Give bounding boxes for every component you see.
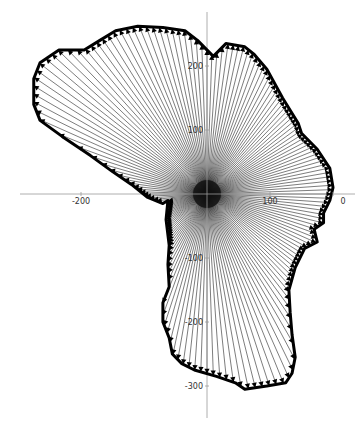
arrowhead — [114, 32, 119, 38]
field-ray — [201, 194, 207, 372]
y-tick-label: 200 — [188, 62, 203, 71]
field-ray — [184, 31, 207, 194]
field-ray — [207, 157, 322, 194]
arrowhead — [102, 39, 107, 45]
arrowhead — [169, 250, 174, 256]
y-tick-label: -100 — [185, 254, 203, 263]
arrowhead — [97, 42, 102, 48]
x-tick-label: -200 — [72, 197, 90, 206]
arrowhead — [270, 85, 275, 91]
field-ray — [207, 194, 213, 375]
ticks-group: -2001000200100-100-200-300 — [72, 62, 346, 391]
field-ray — [207, 53, 253, 194]
arrowhead — [168, 256, 173, 262]
arrowhead — [46, 59, 52, 64]
arrowhead — [40, 63, 46, 68]
arrowhead — [85, 49, 90, 55]
field-ray — [207, 194, 233, 382]
field-ray — [153, 27, 207, 194]
y-tick-label: -200 — [185, 318, 203, 327]
field-ray — [183, 194, 207, 364]
arrowhead — [287, 324, 292, 330]
y-tick-label: -300 — [185, 382, 203, 391]
arrowhead — [286, 312, 291, 318]
x-tick-label: 0 — [340, 197, 345, 206]
arrowhead — [285, 303, 290, 309]
rays-group — [34, 26, 333, 388]
x-tick-label: 100 — [262, 197, 277, 206]
field-ray — [108, 35, 207, 194]
arrowhead — [275, 93, 280, 99]
y-tick-label: 100 — [188, 126, 203, 135]
field-ray — [92, 157, 207, 194]
arrowhead — [37, 71, 43, 76]
field-ray — [207, 194, 269, 386]
field-ray — [34, 94, 207, 194]
arrowhead — [289, 338, 294, 344]
arrowhead — [91, 46, 96, 52]
field-ray — [207, 194, 290, 308]
arrowhead — [268, 80, 273, 86]
field-ray — [40, 63, 207, 194]
arrowhead — [108, 35, 113, 41]
field-ray — [207, 194, 292, 329]
arrowhead — [277, 98, 282, 104]
vector-field-plot: -2001000200100-100-200-300 — [0, 0, 362, 430]
field-ray — [207, 194, 315, 229]
arrowhead — [273, 89, 278, 95]
